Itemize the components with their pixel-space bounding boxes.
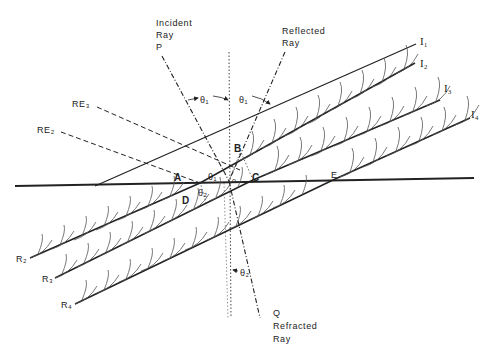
theta1-lower-label: θ₁ (208, 172, 217, 182)
wavefront-r4-label: R₄ (61, 300, 72, 310)
wavefront-r3-label: R₃ (42, 274, 53, 284)
refracted-ray-label-1: Refracted (273, 321, 317, 331)
wavefront-i2-label: I₂ (420, 57, 428, 69)
theta1-right-label: θ₁ (239, 95, 248, 105)
helper-line-extra (224, 183, 228, 318)
wavefront-i1-label: I₁ (420, 35, 428, 47)
wavefront-i2-r2 (30, 63, 415, 258)
incident-ray-label-1: Incident (156, 18, 192, 28)
refracted-ray-label-q: Q (273, 308, 281, 318)
reflected-edge-re3 (97, 107, 240, 170)
wavefront-i3-label: I₃ (444, 82, 452, 94)
re3-label: RE₃ (72, 99, 90, 109)
wavefront-diagram: Incident Ray P Reflected Ray Q Refracted… (0, 0, 495, 364)
point-d-label: D (182, 195, 189, 206)
wavefront-i4-label: I₄ (471, 108, 479, 120)
refracted-ray-label-2: Ray (273, 334, 291, 344)
wavefront-i3-r3 (55, 100, 440, 278)
refracted-ray-line (229, 181, 260, 318)
incident-ray-label-2: Ray (156, 30, 174, 40)
theta2-upper-label: θ₂ (198, 188, 208, 198)
wavefront-r2-label: R₂ (16, 254, 27, 264)
reflected-ray-label-2: Ray (282, 38, 300, 48)
point-b-label: B (234, 143, 241, 154)
incident-ray-line (162, 56, 229, 181)
re2-label: RE₂ (37, 125, 55, 135)
point-c-label: C (252, 172, 259, 183)
theta2-lower-label: θ₂ (240, 268, 250, 278)
point-e-label: E (331, 170, 338, 180)
theta1-left-label: θ₁ (200, 95, 209, 105)
incident-ray-label-3: P (156, 42, 163, 52)
reflected-ray-label-1: Reflected (282, 26, 325, 36)
origin-mark: o (232, 177, 237, 184)
point-a-label: A (174, 172, 181, 183)
